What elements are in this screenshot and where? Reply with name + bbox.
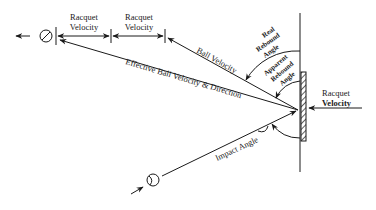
racquet-velocity-label-2b: Velocity [125, 22, 154, 32]
racquet-velocity-label-1a: Racquet [70, 12, 98, 22]
incoming-ball-icon [147, 174, 159, 186]
racquet-velocity-right-label-1: Racquet [322, 88, 350, 98]
racquet-face [301, 72, 306, 141]
racquet-velocity-label-2a: Racquet [125, 12, 153, 22]
racquet-velocity-label-1b: Velocity [70, 22, 99, 32]
ball-velocity-label: Ball Velocity [195, 45, 239, 76]
impact-angle-arc [272, 124, 300, 138]
incoming-motion-arrow [131, 187, 143, 194]
incoming-ball-path [162, 111, 296, 176]
impact-angle-label: Impact Angle [214, 134, 260, 163]
tennis-rebound-diagram: Racquet Velocity Racquet Velocity Ball V… [0, 0, 376, 210]
racquet-velocity-right-label-2: Velocity [322, 98, 352, 108]
